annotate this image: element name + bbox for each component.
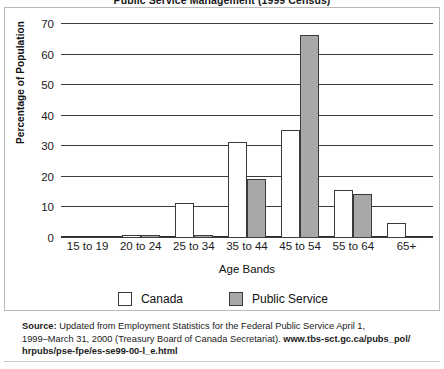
plot-area: 706050403020100	[61, 23, 433, 237]
bar-public-service-55-to-64	[353, 194, 372, 237]
legend-swatch-public-service-icon	[229, 292, 243, 306]
y-tick-label-70: 70	[41, 18, 54, 30]
bar-canada-20-to-24	[122, 235, 141, 237]
bar-group	[220, 23, 273, 237]
legend-label-public-service: Public Service	[252, 292, 328, 306]
source-label: Source:	[22, 321, 57, 331]
bar-public-service-25-to-34	[194, 235, 213, 237]
y-tick-label-10: 10	[41, 201, 54, 213]
bar-public-service-35-to-44	[247, 179, 266, 237]
source-note: Source: Updated from Employment Statisti…	[22, 320, 432, 358]
bar-canada-35-to-44	[228, 142, 247, 237]
y-tick-label-30: 30	[41, 140, 54, 152]
chart-panel: Percentage of Population 706050403020100…	[4, 7, 440, 311]
chart-page: Public Service Management (1999 Census) …	[0, 0, 444, 369]
bar-canada-65+	[387, 223, 406, 237]
legend-item-canada: Canada	[118, 292, 183, 306]
x-tick-label: 55 to 64	[327, 240, 380, 252]
legend-item-public-service: Public Service	[229, 292, 328, 306]
x-tick-label: 15 to 19	[61, 240, 114, 252]
x-axis-label: Age Bands	[61, 263, 433, 275]
y-axis-label: Percentage of Population	[15, 21, 26, 144]
source-line1: Updated from Employment Statistics for t…	[57, 321, 365, 331]
bar-group	[274, 23, 327, 237]
chart-title: Public Service Management (1999 Census)	[0, 0, 444, 6]
y-tick-label-20: 20	[41, 171, 54, 183]
y-tick-label-0: 0	[48, 232, 54, 244]
bar-canada-25-to-34	[175, 203, 194, 237]
legend-label-canada: Canada	[141, 292, 183, 306]
bar-group	[327, 23, 380, 237]
source-url-part1[interactable]: www.tbs-sct.gc.ca/pubs_pol/	[283, 334, 410, 344]
y-tick-label-40: 40	[41, 110, 54, 122]
bar-canada-55-to-64	[334, 190, 353, 237]
bar-canada-45-to-54	[281, 130, 300, 237]
x-tick-label: 20 to 24	[114, 240, 167, 252]
x-tick-label: 65+	[380, 240, 433, 252]
x-tick-label: 35 to 44	[220, 240, 273, 252]
bar-groups	[61, 23, 433, 237]
footer-divider	[4, 361, 440, 362]
y-tick-label-60: 60	[41, 49, 54, 61]
bar-public-service-20-to-24	[141, 235, 160, 237]
gridline-0: 0	[61, 237, 433, 238]
legend-swatch-canada-icon	[118, 292, 132, 306]
bar-group	[167, 23, 220, 237]
y-tick-label-50: 50	[41, 79, 54, 91]
bar-group	[114, 23, 167, 237]
x-axis-ticks: 15 to 1920 to 2425 to 3435 to 4445 to 54…	[61, 240, 433, 252]
chart-legend: Canada Public Service	[5, 292, 441, 306]
x-tick-label: 25 to 34	[167, 240, 220, 252]
bar-group	[61, 23, 114, 237]
bar-public-service-45-to-54	[300, 35, 319, 237]
bar-group	[380, 23, 433, 237]
x-tick-label: 45 to 54	[274, 240, 327, 252]
source-url-part2[interactable]: hrpubs/pse-fpe/es-se99-00-l_e.html	[22, 346, 178, 356]
source-line2: 1999–March 31, 2000 (Treasury Board of C…	[22, 334, 283, 344]
